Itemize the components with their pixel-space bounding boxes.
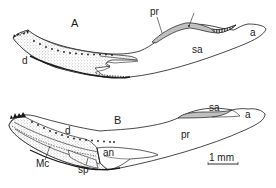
panel-a-pr-label: pr	[150, 7, 159, 17]
panel-b-d-label: d	[65, 126, 71, 136]
panel-a-label: A	[71, 18, 78, 28]
jaw-a	[13, 13, 266, 78]
jaw-a-pr-leader	[157, 17, 162, 33]
panel-b-sa-label: sa	[209, 103, 220, 113]
panel-b-sp-label: sp	[78, 165, 89, 175]
mandible-figure: A pr a sa d B sa a d pr an Mc sp 1 mm	[0, 0, 276, 188]
scale-bar-label: 1 mm	[209, 153, 234, 163]
panel-b-an-label: an	[103, 148, 114, 158]
panel-a-d-label: d	[22, 56, 28, 66]
panel-b-label: B	[114, 115, 121, 125]
panel-b-mc-label: Mc	[36, 159, 49, 169]
panel-b-pr-label: pr	[181, 130, 190, 140]
panel-b-a-label: a	[245, 110, 251, 120]
panel-a-sa-label: sa	[192, 45, 203, 55]
panel-a-a-label: a	[250, 28, 256, 38]
